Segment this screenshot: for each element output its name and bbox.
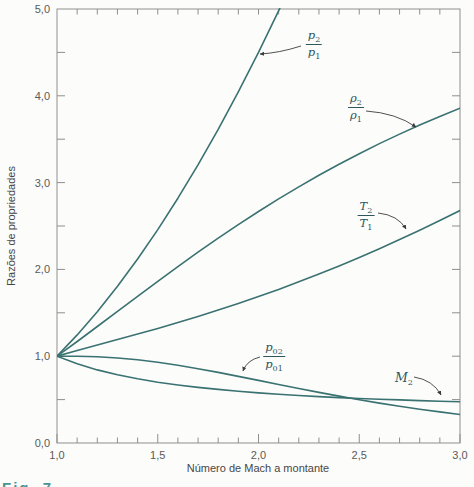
svg-text:5,0: 5,0 <box>35 3 50 15</box>
curve-label-rho2rho1: ρ2 ρ1 <box>348 93 364 121</box>
arrow-p2p1 <box>260 46 301 54</box>
curve-label-p02p01: p02 p01 <box>263 342 285 370</box>
svg-text:1,0: 1,0 <box>49 449 64 461</box>
svg-text:2,0: 2,0 <box>251 449 266 461</box>
fraction-denominator: p01 <box>263 357 285 371</box>
fraction-numerator: M2 <box>395 372 413 385</box>
chart-canvas: 1,01,52,02,53,00,01,02,03,04,05,0 Número… <box>0 0 474 487</box>
fraction-numerator: p2 <box>306 30 322 45</box>
svg-text:1,5: 1,5 <box>150 449 165 461</box>
svg-text:2,0: 2,0 <box>35 263 50 275</box>
curve-label-M2: M2 <box>395 372 413 385</box>
fraction-numerator: p02 <box>263 342 285 357</box>
curve-T2T1 <box>57 211 460 357</box>
svg-text:4,0: 4,0 <box>35 90 50 102</box>
y-axis-title: Razões de propriedades <box>5 166 17 286</box>
svg-text:0,0: 0,0 <box>35 437 50 449</box>
arrow-rho2rho1 <box>366 111 416 127</box>
curve-rho2rho1 <box>57 108 460 356</box>
arrow-p02p01 <box>243 357 260 371</box>
x-axis-title: Número de Mach a montante <box>187 462 329 474</box>
curve-label-p2p1: p2 p1 <box>306 30 322 58</box>
fraction-numerator: ρ2 <box>348 93 364 108</box>
svg-text:1,0: 1,0 <box>35 350 50 362</box>
fraction-numerator: T2 <box>358 201 375 216</box>
arrow-M2 <box>414 377 441 395</box>
fraction-denominator: T1 <box>358 216 375 230</box>
fraction-denominator: ρ1 <box>348 108 364 122</box>
svg-text:3,0: 3,0 <box>452 449 467 461</box>
curves <box>57 0 460 415</box>
fraction-denominator: p1 <box>306 45 322 59</box>
svg-text:3,0: 3,0 <box>35 177 50 189</box>
curve-p2p1 <box>57 0 460 356</box>
svg-text:2,5: 2,5 <box>352 449 367 461</box>
arrow-T2T1 <box>378 213 406 229</box>
curve-p02p01 <box>57 356 460 414</box>
figure-caption-fragment: Fig. 7 <box>2 479 92 487</box>
curve-label-T2T1: T2 T1 <box>358 201 375 229</box>
normal-shock-ratios-figure: 1,01,52,02,53,00,01,02,03,04,05,0 Número… <box>0 0 474 487</box>
